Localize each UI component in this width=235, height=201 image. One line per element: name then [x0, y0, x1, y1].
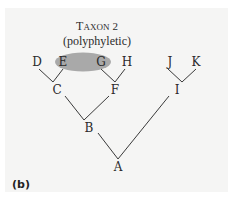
branch-i-j [168, 69, 182, 82]
node-label-b: B [85, 121, 94, 135]
branch-b-f [84, 96, 109, 120]
node-label-j: J [166, 55, 173, 69]
node-labels: DEGHJKCFIBA [32, 55, 201, 174]
branch-f-h [115, 69, 125, 82]
branch-a-i [118, 96, 169, 159]
node-label-k: K [192, 55, 202, 69]
node-label-e: E [59, 55, 68, 69]
node-label-d: D [32, 55, 42, 69]
node-label-i: I [175, 83, 180, 97]
node-label-a: A [113, 160, 123, 174]
node-label-g: G [96, 55, 106, 69]
node-label-h: H [122, 55, 132, 69]
branch-c-e [53, 69, 63, 82]
branch-f-g [101, 69, 115, 82]
node-label-f: F [111, 83, 119, 97]
taxon-type-label: (polyphyletic) [63, 34, 131, 48]
branch-c-d [39, 69, 53, 82]
taxon-title: TAXON2 [76, 19, 118, 33]
branch-a-b [98, 133, 118, 159]
panel-label: (b) [12, 178, 30, 191]
branch-i-k [182, 69, 196, 82]
phylogenetic-tree: TAXON2 (polyphyletic) DEGHJKCFIBA (b) [0, 0, 235, 201]
node-label-c: C [52, 83, 61, 97]
branch-b-c [65, 96, 84, 120]
